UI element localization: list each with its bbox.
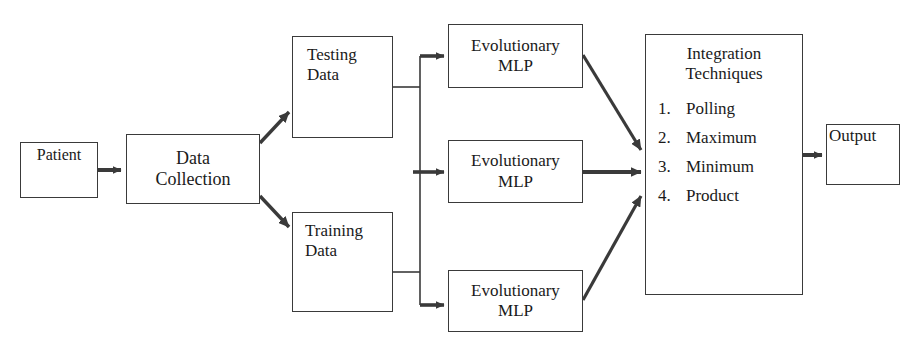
list-item-number: 1.: [658, 99, 686, 119]
integration-techniques-title-line2: Techniques: [646, 64, 802, 84]
node-evolutionary-mlp-3-label-line2: MLP: [498, 301, 533, 321]
node-testing-data-label-line2: Data: [307, 65, 339, 85]
list-item-label: Product: [686, 186, 739, 206]
node-evolutionary-mlp-1-label-line1: Evolutionary: [471, 36, 560, 56]
list-item: 4. Product: [646, 186, 802, 206]
list-item-label: Polling: [686, 99, 735, 119]
node-testing-data: Testing Data: [292, 36, 393, 138]
node-evolutionary-mlp-2-label-line1: Evolutionary: [471, 151, 560, 171]
node-evolutionary-mlp-2-label-line2: MLP: [498, 172, 533, 192]
node-evolutionary-mlp-2: Evolutionary MLP: [448, 140, 583, 203]
connector-data-collection-to-testing-data: [260, 112, 289, 143]
flow-diagram: Patient Data Collection Testing Data Tra…: [0, 0, 924, 347]
node-output: Output: [826, 124, 900, 185]
list-item-number: 2.: [658, 128, 686, 148]
node-evolutionary-mlp-1-label-line2: MLP: [498, 56, 533, 76]
connector-mlp-1-to-integration: [583, 55, 641, 150]
list-item-label: Minimum: [686, 157, 754, 177]
node-patient: Patient: [20, 142, 98, 198]
list-item: 1. Polling: [646, 99, 802, 119]
connector-data-collection-to-training-data: [260, 196, 289, 227]
integration-techniques-title: Integration Techniques: [646, 44, 802, 85]
node-output-label: Output: [829, 126, 876, 146]
node-evolutionary-mlp-3-label-line1: Evolutionary: [471, 281, 560, 301]
list-item: 2. Maximum: [646, 128, 802, 148]
node-integration-techniques: Integration Techniques 1. Polling 2. Max…: [645, 34, 803, 295]
integration-techniques-title-line1: Integration: [646, 44, 802, 64]
node-training-data-label-line2: Data: [305, 241, 337, 261]
connector-mlp-3-to-integration: [583, 196, 641, 300]
node-evolutionary-mlp-1: Evolutionary MLP: [448, 24, 583, 88]
node-evolutionary-mlp-3: Evolutionary MLP: [448, 270, 583, 332]
list-item-number: 3.: [658, 157, 686, 177]
node-training-data-label-line1: Training: [305, 221, 363, 241]
list-item-number: 4.: [658, 186, 686, 206]
list-item: 3. Minimum: [646, 157, 802, 177]
list-item-label: Maximum: [686, 128, 757, 148]
node-data-collection: Data Collection: [126, 134, 260, 204]
integration-techniques-list: 1. Polling 2. Maximum 3. Minimum 4. Prod…: [646, 85, 802, 215]
node-patient-label: Patient: [37, 146, 81, 165]
node-testing-data-label-line1: Testing: [307, 45, 357, 65]
node-data-collection-label-line1: Data: [176, 148, 210, 169]
node-training-data: Training Data: [292, 212, 393, 312]
node-data-collection-label-line2: Collection: [156, 169, 231, 190]
